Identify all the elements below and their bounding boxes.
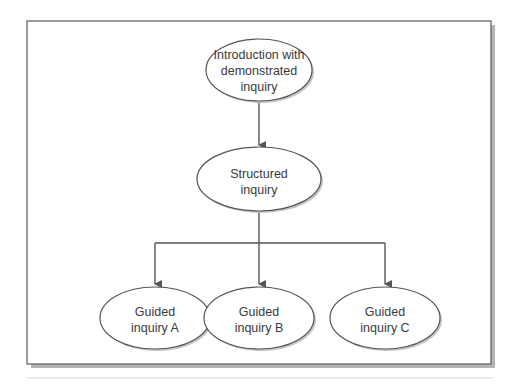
diagram-canvas: Introduction with demonstrated inquiry S…: [0, 0, 519, 384]
node-guided-a-line-2: inquiry A: [131, 321, 180, 335]
node-intro-line-2: demonstrated: [221, 64, 297, 78]
node-guided-b-line-1: Guided: [239, 305, 279, 319]
node-structured-line-1: Structured: [230, 167, 288, 181]
node-intro-line-1: Introduction with: [213, 48, 304, 62]
node-guided-c-line-2: inquiry C: [360, 321, 409, 335]
node-guided-c-line-1: Guided: [365, 305, 405, 319]
node-structured-line-2: inquiry: [241, 183, 279, 197]
node-guided-a-line-1: Guided: [135, 305, 175, 319]
node-guided-b-line-2: inquiry B: [235, 321, 284, 335]
node-intro-line-3: inquiry: [241, 80, 279, 94]
